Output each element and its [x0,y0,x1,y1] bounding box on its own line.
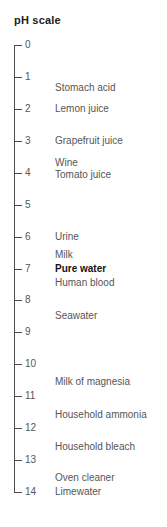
tick-label: 8 [25,294,31,306]
tick-label: 13 [25,454,36,466]
tick-label: 4 [25,167,31,179]
tick-label: 0 [25,39,31,51]
tick-label: 9 [25,326,31,338]
tick-label: 7 [25,263,31,275]
tick-label: 14 [25,486,36,498]
substance-label: Urine [55,231,79,243]
tick-mark [14,364,22,365]
tick-mark [14,332,22,333]
tick-mark [14,460,22,461]
ph-scale-figure: pH scale 01234567891011121314 Stomach ac… [0,0,167,527]
tick-label: 1 [25,71,31,83]
tick-label: 2 [25,103,31,115]
substance-label: Wine [55,157,78,169]
tick-mark [14,237,22,238]
tick-mark [14,396,22,397]
tick-label: 10 [25,358,36,370]
substance-label: Stomach acid [55,82,116,94]
tick-label: 5 [25,199,31,211]
substance-label: Oven cleaner [55,472,114,484]
tick-mark [14,173,22,174]
substance-label: Human blood [55,277,114,289]
substance-label: Milk [55,249,73,261]
substance-label: Limewater [55,486,101,498]
tick-mark [14,492,22,493]
tick-mark [14,300,22,301]
substance-label: Seawater [55,310,97,322]
tick-label: 11 [25,390,35,402]
tick-mark [14,77,22,78]
tick-label: 6 [25,231,31,243]
tick-label: 3 [25,135,31,147]
tick-label: 12 [25,422,36,434]
substance-label: Milk of magnesia [55,376,130,388]
substance-label: Pure water [55,263,106,275]
substance-label: Household bleach [55,441,135,453]
tick-mark [14,205,22,206]
substance-label: Lemon juice [55,103,109,115]
tick-mark [14,45,22,46]
substance-label: Tomato juice [55,169,111,181]
substance-label: Grapefruit juice [55,135,123,147]
tick-mark [14,109,22,110]
tick-mark [14,141,22,142]
figure-title: pH scale [14,14,61,26]
tick-mark [14,428,22,429]
tick-mark [14,269,22,270]
substance-label: Household ammonia [55,409,147,421]
